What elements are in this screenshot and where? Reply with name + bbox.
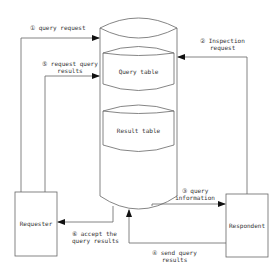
result-table-label: Result table bbox=[103, 127, 174, 134]
step-3-text-2: information bbox=[170, 194, 220, 201]
step-5-text-1: request query bbox=[51, 60, 98, 67]
step-3-text-1: query bbox=[190, 187, 208, 194]
step-2-label: ② Inspection request bbox=[200, 37, 245, 51]
step-4-number: ④ bbox=[152, 249, 157, 256]
arrow-request-query-results bbox=[45, 76, 99, 192]
query-table-label: Query table bbox=[103, 68, 174, 75]
step-4-text-2: results bbox=[152, 256, 197, 263]
arrow-inspection-request bbox=[178, 57, 247, 194]
step-6-text-1: accept the bbox=[81, 230, 117, 237]
step-2-number: ② bbox=[200, 37, 205, 44]
step-6-label: ⑥ accept the query results bbox=[72, 230, 119, 244]
step-5-number: ⑤ bbox=[42, 60, 47, 67]
arrow-send-query-results bbox=[129, 210, 226, 243]
arrow-query-information bbox=[152, 204, 225, 206]
step-4-text-1: send query bbox=[161, 249, 197, 256]
step-2-text-1: Inspection bbox=[209, 37, 245, 44]
step-5-label: ⑤ request query results bbox=[40, 60, 100, 74]
arrow-accept-query-results bbox=[58, 206, 113, 222]
step-3-label: ③ query information bbox=[170, 187, 220, 201]
step-1-number: ① bbox=[30, 24, 35, 31]
step-3-number: ③ bbox=[182, 187, 187, 194]
respondent-label: Respondent bbox=[226, 222, 268, 229]
step-4-label: ④ send query results bbox=[152, 249, 197, 263]
step-1-text: query request bbox=[39, 24, 86, 31]
step-6-number: ⑥ bbox=[72, 230, 77, 237]
step-2-text-2: request bbox=[200, 44, 245, 51]
step-5-text-2: results bbox=[40, 67, 100, 74]
step-1-label: ① query request bbox=[30, 24, 86, 31]
requester-label: Requester bbox=[15, 220, 57, 227]
step-6-text-2: query results bbox=[72, 237, 119, 244]
